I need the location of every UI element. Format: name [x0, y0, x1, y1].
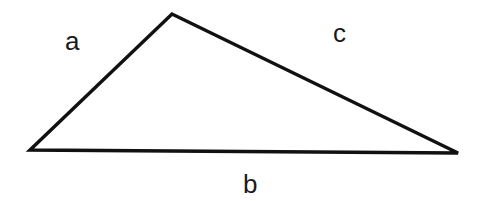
- side-label-c: c: [333, 18, 346, 48]
- side-label-a: a: [65, 26, 80, 56]
- side-label-b: b: [243, 169, 257, 199]
- triangle-shape: [30, 14, 458, 153]
- triangle-diagram: a c b: [0, 0, 479, 201]
